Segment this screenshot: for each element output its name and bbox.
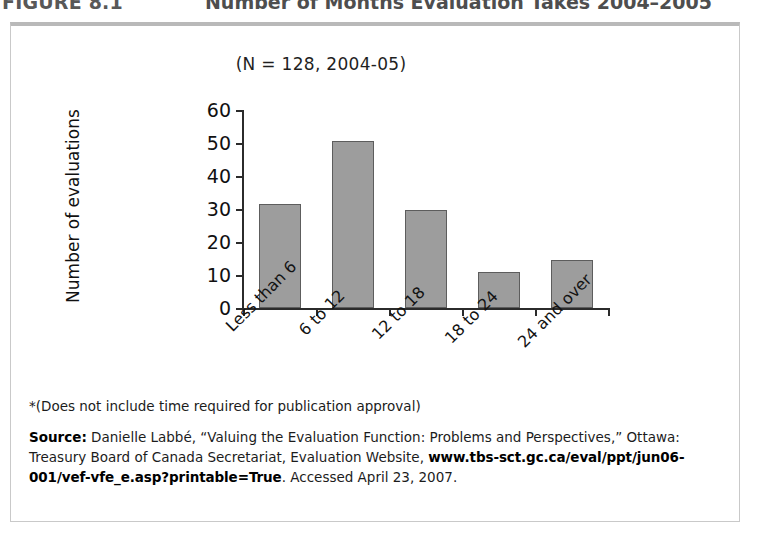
y-tick-mark (236, 209, 243, 211)
y-tick-mark (236, 143, 243, 145)
y-tick-mark (236, 110, 243, 112)
y-tick-mark (236, 275, 243, 277)
figure-title: Number of Months Evaluation Takes 2004–2… (205, 0, 712, 13)
y-tick-label: 60 (207, 99, 231, 121)
y-tick-label: 10 (207, 264, 231, 286)
figure-notes: *(Does not include time required for pub… (29, 398, 729, 487)
bar-chart: (N = 128, 2004-05) Number of evaluations… (11, 26, 741, 396)
y-axis-title: Number of evaluations (63, 106, 83, 306)
y-tick-mark (236, 176, 243, 178)
figure-number: FIGURE 8.1 (2, 0, 123, 13)
footnote-text: *(Does not include time required for pub… (29, 398, 729, 414)
figure-panel: (N = 128, 2004-05) Number of evaluations… (10, 22, 740, 522)
y-tick-label: 50 (207, 132, 231, 154)
chart-subtitle: (N = 128, 2004-05) (11, 54, 631, 74)
y-tick-mark (236, 242, 243, 244)
x-tick-mark (608, 309, 610, 316)
y-tick-label: 30 (207, 198, 231, 220)
plot-area (243, 110, 608, 308)
y-tick-label: 40 (207, 165, 231, 187)
bar (332, 141, 374, 308)
figure-header: FIGURE 8.1 Number of Months Evaluation T… (0, 0, 762, 18)
source-label: Source: (29, 429, 87, 445)
source-accessed: . Accessed April 23, 2007. (282, 469, 458, 485)
source-text: Source: Danielle Labbé, “Valuing the Eva… (29, 427, 729, 487)
y-tick-label: 20 (207, 231, 231, 253)
